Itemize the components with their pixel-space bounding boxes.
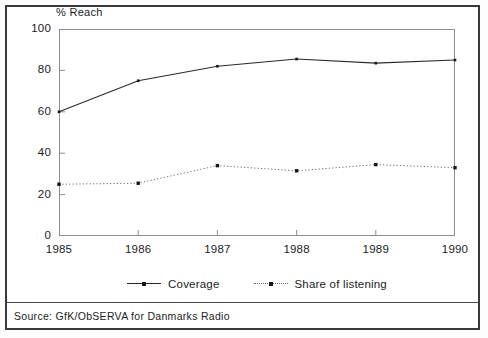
- y-tick-label: 80: [11, 63, 51, 75]
- x-tick-label: 1989: [346, 243, 406, 255]
- y-tick-label: 20: [11, 188, 51, 200]
- legend-label-share-of-listening: Share of listening: [295, 278, 387, 290]
- legend-label-coverage: Coverage: [168, 278, 219, 290]
- x-tick-label: 1985: [29, 243, 89, 255]
- legend-marker-coverage: [127, 279, 161, 289]
- legend-item-share-of-listening: Share of listening: [254, 278, 387, 290]
- x-tick-label: 1990: [425, 243, 485, 255]
- chart-figure: % Reach 100806040200 1985198619871988198…: [0, 0, 488, 338]
- y-tick-label: 100: [11, 22, 51, 34]
- y-tick-label: 60: [11, 105, 51, 117]
- x-tick-label: 1986: [108, 243, 168, 255]
- source-text: Source: GfK/ObSERVA for Danmarks Radio: [14, 310, 230, 322]
- x-tick-label: 1988: [267, 243, 327, 255]
- y-axis-caption: % Reach: [56, 6, 103, 18]
- x-tick-label: 1987: [187, 243, 247, 255]
- chart-legend: Coverage Share of listening: [59, 274, 455, 294]
- legend-item-coverage: Coverage: [127, 278, 219, 290]
- y-tick-label: 40: [11, 146, 51, 158]
- legend-marker-share-of-listening: [254, 279, 288, 289]
- y-tick-label: 0: [11, 229, 51, 241]
- source-divider: [7, 302, 478, 303]
- plot-area: [59, 29, 455, 236]
